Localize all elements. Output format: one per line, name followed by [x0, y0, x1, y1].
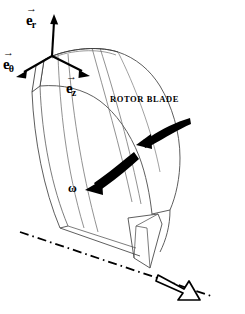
e-z-subscript: z [72, 87, 76, 98]
axis-label-e-theta: → eθ [3, 56, 245, 74]
e-r-subscript: r [32, 19, 36, 30]
rotor-blade-diagram [0, 0, 245, 314]
figure-canvas: → er → eθ → ez ROTOR BLADE ω → ω =ω → ez [0, 0, 245, 314]
omega-label: ω [68, 182, 77, 194]
axis-label-e-r: → er [26, 12, 245, 30]
e-theta-vector-accent: → [3, 47, 14, 58]
rotor-blade-label: ROTOR BLADE [110, 95, 179, 104]
blade-trailing-edge [160, 210, 170, 252]
e-theta-subscript: θ [9, 63, 14, 74]
e-z-vector-accent: → [66, 71, 77, 82]
e-r-vector-accent: → [26, 3, 37, 14]
omega-vector-arrow [156, 275, 200, 300]
